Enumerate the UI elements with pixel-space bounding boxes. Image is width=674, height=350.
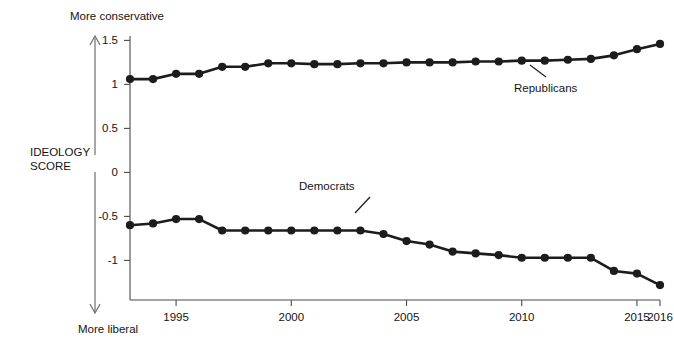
data-point <box>564 254 572 262</box>
series-lines <box>130 44 660 285</box>
data-point <box>379 230 387 238</box>
y-tick-label: 1.5 <box>102 34 118 46</box>
data-point <box>633 270 641 278</box>
ideology-score-chart: More conservative More liberal IDEOLOGY … <box>0 0 674 350</box>
data-point <box>564 56 572 64</box>
data-point <box>310 226 318 234</box>
data-point <box>402 237 410 245</box>
data-point <box>449 248 457 256</box>
data-point <box>195 70 203 78</box>
data-point <box>633 45 641 53</box>
data-point <box>333 60 341 68</box>
data-point <box>472 249 480 257</box>
y-tick-label: -0.5 <box>98 210 118 222</box>
y-axis-tick-labels: 1.510.50-0.5-1 <box>98 34 118 266</box>
series-line-republicans <box>130 44 660 79</box>
data-point <box>264 226 272 234</box>
data-point <box>195 215 203 223</box>
series-data-points <box>126 40 664 289</box>
data-point <box>241 226 249 234</box>
series-label-republicans: Republicans <box>514 82 578 94</box>
x-tick-label: 2010 <box>509 311 535 323</box>
data-point <box>425 240 433 248</box>
data-point <box>656 40 664 48</box>
y-axis-title-line2: SCORE <box>30 160 71 172</box>
y-axis-title-line1: IDEOLOGY <box>30 146 90 158</box>
plot-axes <box>130 36 660 300</box>
y-tick-label: -1 <box>108 254 118 266</box>
series-label-democrats: Democrats <box>299 180 355 192</box>
x-tick-label: 2015 <box>624 311 650 323</box>
data-point <box>310 60 318 68</box>
data-point <box>149 75 157 83</box>
x-axis-tick-labels: 199520002005201020152016 <box>163 311 673 323</box>
data-point <box>149 219 157 227</box>
data-point <box>495 57 503 65</box>
data-point <box>172 70 180 78</box>
axis-caption-top: More conservative <box>70 10 164 22</box>
data-point <box>379 59 387 67</box>
data-point <box>587 55 595 63</box>
x-tick-label: 2000 <box>279 311 305 323</box>
data-point <box>218 226 226 234</box>
data-point <box>287 226 295 234</box>
data-point <box>402 58 410 66</box>
data-point <box>518 254 526 262</box>
data-point <box>126 221 134 229</box>
democrats-leader-line <box>355 197 370 213</box>
series-line-democrats <box>130 219 660 285</box>
data-point <box>656 281 664 289</box>
direction-arrow-axis <box>90 36 100 313</box>
y-tick-label: 0.5 <box>102 122 118 134</box>
data-point <box>541 254 549 262</box>
data-point <box>241 63 249 71</box>
data-point <box>472 57 480 65</box>
y-tick-label: 1 <box>112 78 118 90</box>
data-point <box>218 63 226 71</box>
republicans-leader-line <box>530 65 546 77</box>
data-point <box>356 226 364 234</box>
data-point <box>518 57 526 65</box>
y-tick-label: 0 <box>112 166 118 178</box>
data-point <box>541 57 549 65</box>
data-point <box>172 215 180 223</box>
axis-caption-bottom: More liberal <box>78 323 138 335</box>
data-point <box>356 59 364 67</box>
data-point <box>264 59 272 67</box>
x-tick-label: 2005 <box>394 311 420 323</box>
x-tick-label: 1995 <box>163 311 189 323</box>
x-axis-ticks <box>176 300 660 306</box>
data-point <box>449 58 457 66</box>
data-point <box>126 75 134 83</box>
data-point <box>610 267 618 275</box>
data-point <box>333 226 341 234</box>
data-point <box>495 251 503 259</box>
data-point <box>610 51 618 59</box>
data-point <box>425 58 433 66</box>
data-point <box>287 59 295 67</box>
x-tick-label: 2016 <box>647 311 673 323</box>
chart-canvas: More conservative More liberal IDEOLOGY … <box>0 0 674 350</box>
data-point <box>587 254 595 262</box>
